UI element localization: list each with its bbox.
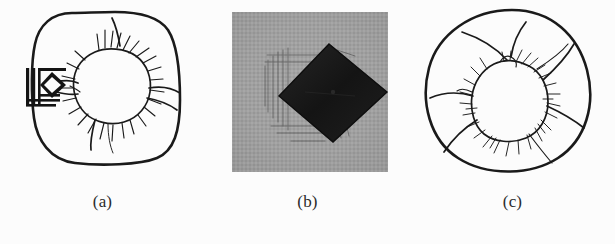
panel-c-caption: (c) (410, 192, 615, 212)
panel-a: (a) (0, 0, 205, 244)
panel-c-central-blob (457, 56, 548, 141)
panel-c: (c) (410, 0, 615, 244)
panel-a-caption: (a) (0, 192, 205, 212)
figure-container: (a) (0, 0, 615, 244)
panel-c-artwork (410, 0, 615, 190)
panel-b: (b) (205, 0, 410, 244)
panel-c-radiating-hairs (460, 50, 560, 156)
panel-a-artwork (0, 0, 205, 190)
panel-b-caption: (b) (205, 192, 410, 212)
panel-b-artwork (205, 0, 410, 190)
scale-bar-marker (26, 68, 66, 107)
panel-a-radiating-cracks (61, 18, 180, 153)
